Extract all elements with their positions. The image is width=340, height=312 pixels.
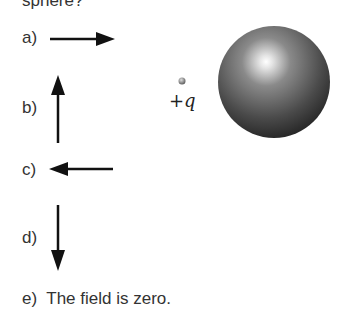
arrow-down-icon <box>51 205 65 271</box>
option-b-label: b) <box>22 98 37 118</box>
option-e-text: The field is zero. <box>46 289 171 308</box>
option-a-label: a) <box>22 28 37 48</box>
charge-label: +q <box>169 90 196 111</box>
arrow-right-icon <box>50 32 115 46</box>
figure <box>0 0 340 312</box>
arrow-up-icon <box>51 75 65 143</box>
option-c-label: c) <box>22 160 36 180</box>
point-charge-icon <box>179 78 186 85</box>
option-e: e) The field is zero. <box>22 289 171 309</box>
sphere-icon <box>218 26 330 138</box>
option-d-label: d) <box>22 228 37 248</box>
arrow-left-icon <box>49 162 113 176</box>
option-e-label: e) <box>22 289 37 308</box>
